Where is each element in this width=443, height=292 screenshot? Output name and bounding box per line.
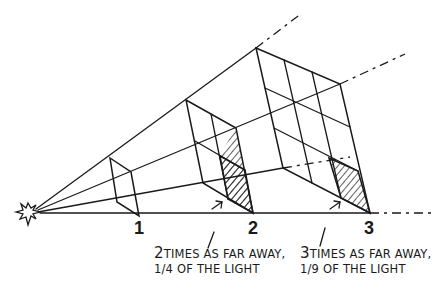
frame-1 bbox=[110, 158, 139, 216]
light-source-icon bbox=[16, 203, 40, 225]
frame-2 bbox=[186, 100, 253, 213]
caption-2: 2TIMES AS FAR AWAY, 1/4 OF THE LIGHT bbox=[154, 246, 285, 277]
distance-label-3: 3 bbox=[364, 218, 374, 239]
arrow-frame-2 bbox=[212, 201, 222, 209]
caption-3: 3TIMES AS FAR AWAY, 1/9 OF THE LIGHT bbox=[300, 246, 431, 277]
distance-label-2: 2 bbox=[248, 218, 258, 239]
leader-line-3 bbox=[320, 228, 325, 246]
arrow-frame-3 bbox=[330, 201, 340, 209]
distance-label-1: 1 bbox=[134, 218, 144, 239]
frame-3 bbox=[256, 48, 370, 213]
